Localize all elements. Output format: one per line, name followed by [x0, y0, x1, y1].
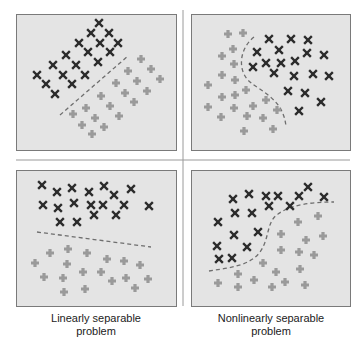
panel-bottom-right [192, 171, 351, 307]
caption-nonlinear: Nonlinearly separable problem [186, 312, 356, 338]
panel-bottom-left [17, 171, 177, 307]
caption-linear-line2: problem [11, 325, 181, 338]
caption-nonlinear-line1: Nonlinearly separable [186, 312, 356, 325]
caption-linear-line1: Linearly separable [11, 312, 181, 325]
separability-diagram [0, 0, 361, 350]
panel-top-right [192, 15, 351, 151]
panel-top-left [17, 15, 177, 151]
caption-linear: Linearly separable problem [11, 312, 181, 338]
panel-frame [17, 171, 177, 307]
panel-frame [17, 15, 177, 151]
caption-nonlinear-line2: problem [186, 325, 356, 338]
